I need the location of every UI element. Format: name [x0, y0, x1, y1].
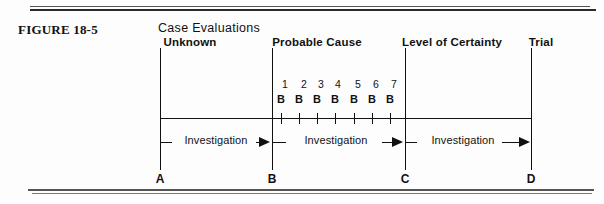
evaluation-tick	[372, 113, 373, 124]
segment-a-to-b: Investigation	[160, 133, 272, 153]
segment-b-to-c: Investigation	[272, 133, 405, 153]
evaluation-tick-number: 4	[335, 78, 341, 90]
evaluation-tick-number: 6	[373, 78, 379, 90]
segment-lead-line	[272, 142, 286, 143]
evaluation-marker-letter: B	[350, 93, 358, 105]
evaluation-tick	[335, 113, 336, 124]
evaluation-tick-number: 2	[301, 78, 307, 90]
milestone-top-label-level-of-certainty: Level of Certainty	[402, 36, 502, 48]
evaluation-tick	[299, 113, 300, 124]
milestone-bottom-label-d: D	[527, 172, 536, 186]
evaluation-marker-letter: B	[277, 93, 285, 105]
arrow-right-icon	[259, 137, 270, 147]
evaluation-marker-letter: B	[386, 93, 394, 105]
segment-tail-line	[502, 142, 520, 143]
bottom-rule-line-2	[32, 193, 592, 194]
milestone-top-label-unknown: Unknown	[163, 36, 216, 48]
segment-c-to-d: Investigation	[405, 133, 531, 153]
evaluation-tick	[390, 113, 391, 124]
milestone-top-label-trial: Trial	[529, 36, 554, 48]
milestone-bottom-label-a: A	[156, 172, 165, 186]
milestone-top-label-probable-cause: Probable Cause	[272, 36, 362, 48]
bottom-rule-line-1	[28, 189, 594, 191]
milestone-bottom-label-c: C	[401, 172, 410, 186]
segment-label: Investigation	[183, 134, 248, 146]
evaluation-tick-number: 5	[355, 78, 361, 90]
evaluation-tick	[354, 113, 355, 124]
evaluation-tick-number: 7	[391, 78, 397, 90]
segment-lead-line	[160, 142, 172, 143]
evaluation-marker-letter: B	[331, 93, 339, 105]
milestone-bottom-label-b: B	[268, 172, 277, 186]
evaluation-tick-number: 3	[318, 78, 324, 90]
timeline-axis	[160, 118, 532, 119]
arrow-right-icon	[392, 137, 403, 147]
arrow-right-icon	[519, 137, 530, 147]
evaluation-marker-letter: B	[313, 93, 321, 105]
evaluation-marker-letter: B	[295, 93, 303, 105]
evaluation-tick	[317, 113, 318, 124]
evaluation-tick-number: 1	[282, 78, 288, 90]
bottom-rule-divider	[0, 188, 604, 197]
segment-lead-line	[405, 142, 417, 143]
figure-container: FIGURE 18-5 Case Evaluations Unknown Pro…	[0, 0, 604, 204]
milestone-line-d	[531, 48, 532, 170]
evaluation-tick	[281, 113, 282, 124]
timeline-diagram: Unknown Probable Cause Level of Certaint…	[0, 0, 604, 204]
segment-label: Investigation	[303, 134, 368, 146]
segment-label: Investigation	[430, 134, 495, 146]
evaluation-marker-letter: B	[368, 93, 376, 105]
